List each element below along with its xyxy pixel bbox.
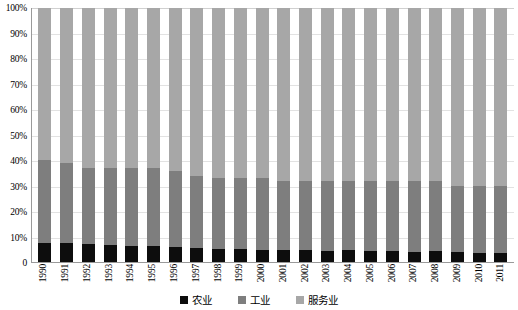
- bar-segment-industry: [342, 181, 355, 251]
- bar-segment-industry: [364, 181, 377, 251]
- bar-segment-agriculture: [147, 246, 160, 262]
- x-axis-tick: 1995: [146, 264, 159, 282]
- bar-segment-agriculture: [169, 247, 182, 262]
- bar-segment-services: [386, 8, 399, 181]
- bar-segment-industry: [234, 178, 247, 249]
- bar-segment-services: [147, 8, 160, 168]
- bar-segment-services: [125, 8, 138, 168]
- bar-segment-services: [494, 8, 507, 186]
- x-axis-tick-label: 1997: [190, 264, 203, 282]
- x-axis-tick-label: 2001: [277, 264, 290, 282]
- chart-legend: 农业工业服务业: [0, 292, 518, 307]
- bar-segment-services: [473, 8, 486, 186]
- y-axis-tick-label: 50%: [10, 131, 27, 141]
- bar-segment-agriculture: [473, 253, 486, 262]
- bar-segment-services: [429, 8, 442, 181]
- bar-column: [299, 8, 312, 262]
- bar-segment-services: [408, 8, 421, 181]
- stacked-bar-chart: 010%20%30%40%50%60%70%80%90%100% 1990199…: [0, 0, 518, 310]
- bar-segment-agriculture: [364, 251, 377, 262]
- bar-segment-services: [104, 8, 117, 168]
- bar-segment-agriculture: [494, 253, 507, 262]
- bar-segment-services: [321, 8, 334, 181]
- bar-segment-agriculture: [342, 250, 355, 262]
- bar-segment-services: [60, 8, 73, 163]
- x-axis-tick: 1990: [37, 264, 50, 282]
- bar-segment-agriculture: [60, 243, 73, 262]
- bar-segment-agriculture: [277, 250, 290, 262]
- x-axis-tick: 1994: [124, 264, 137, 282]
- x-axis-tick-label: 1994: [124, 264, 137, 282]
- x-axis-tick-label: 2003: [320, 264, 333, 282]
- legend-label: 工业: [250, 292, 270, 307]
- bar-segment-industry: [125, 168, 138, 246]
- y-axis-tick-label: 90%: [10, 29, 27, 39]
- x-axis-tick-label: 2009: [451, 264, 464, 282]
- bar-segment-services: [277, 8, 290, 181]
- x-axis-tick-label: 1998: [212, 264, 225, 282]
- x-axis-tick-label: 2011: [494, 264, 507, 282]
- y-axis-tick-label: 60%: [10, 105, 27, 115]
- bar-column: [38, 8, 51, 262]
- bar-segment-industry: [494, 186, 507, 253]
- bar-column: [451, 8, 464, 262]
- bar-segment-industry: [169, 171, 182, 247]
- legend-swatch-icon: [238, 296, 246, 304]
- bar-column: [234, 8, 247, 262]
- bar-segment-services: [256, 8, 269, 178]
- bar-column: [104, 8, 117, 262]
- bar-segment-agriculture: [429, 251, 442, 262]
- x-axis-tick: 2010: [473, 264, 486, 282]
- bar-segment-services: [299, 8, 312, 181]
- bar-segment-agriculture: [38, 243, 51, 262]
- x-axis-tick-label: 1999: [233, 264, 246, 282]
- x-axis-tick: 1997: [190, 264, 203, 282]
- bar-column: [429, 8, 442, 262]
- x-axis-tick: 1993: [103, 264, 116, 282]
- x-axis-tick-label: 2004: [342, 264, 355, 282]
- x-axis-tick-label: 2000: [255, 264, 268, 282]
- x-axis-tick: 2006: [386, 264, 399, 282]
- legend-item[interactable]: 农业: [180, 292, 212, 307]
- x-axis-tick: 2000: [255, 264, 268, 282]
- bar-column: [494, 8, 507, 262]
- x-axis-tick: 1992: [81, 264, 94, 282]
- x-axis-tick-label: 2006: [386, 264, 399, 282]
- bar-segment-agriculture: [408, 252, 421, 262]
- bar-column: [190, 8, 203, 262]
- x-axis-tick: 2011: [494, 264, 507, 282]
- bar-segment-agriculture: [234, 249, 247, 262]
- bar-segment-industry: [256, 178, 269, 249]
- bar-segment-industry: [212, 178, 225, 248]
- bar-segment-services: [169, 8, 182, 171]
- bar-segment-agriculture: [256, 250, 269, 262]
- x-axis-tick: 2007: [407, 264, 420, 282]
- legend-item[interactable]: 服务业: [296, 292, 338, 307]
- bar-column: [125, 8, 138, 262]
- bar-segment-agriculture: [299, 250, 312, 262]
- y-axis-tick-label: 40%: [10, 156, 27, 166]
- legend-label: 农业: [192, 292, 212, 307]
- y-axis-tick-label: 30%: [10, 182, 27, 192]
- bar-segment-agriculture: [104, 245, 117, 262]
- bar-segment-industry: [277, 181, 290, 250]
- bar-segment-services: [342, 8, 355, 181]
- x-axis-tick: 2004: [342, 264, 355, 282]
- bar-segment-services: [82, 8, 95, 168]
- x-axis-tick: 2002: [299, 264, 312, 282]
- legend-label: 服务业: [308, 292, 338, 307]
- bar-column: [321, 8, 334, 262]
- legend-item[interactable]: 工业: [238, 292, 270, 307]
- bar-segment-agriculture: [190, 248, 203, 262]
- x-axis-tick: 1998: [212, 264, 225, 282]
- bar-column: [408, 8, 421, 262]
- x-axis-tick: 1991: [59, 264, 72, 282]
- bar-segment-agriculture: [386, 251, 399, 262]
- bar-segment-industry: [321, 181, 334, 251]
- bar-segment-industry: [60, 163, 73, 243]
- bar-segment-services: [212, 8, 225, 178]
- bar-segment-agriculture: [451, 252, 464, 262]
- x-axis-tick-label: 1995: [146, 264, 159, 282]
- bar-segment-services: [190, 8, 203, 176]
- y-axis: 010%20%30%40%50%60%70%80%90%100%: [0, 0, 31, 263]
